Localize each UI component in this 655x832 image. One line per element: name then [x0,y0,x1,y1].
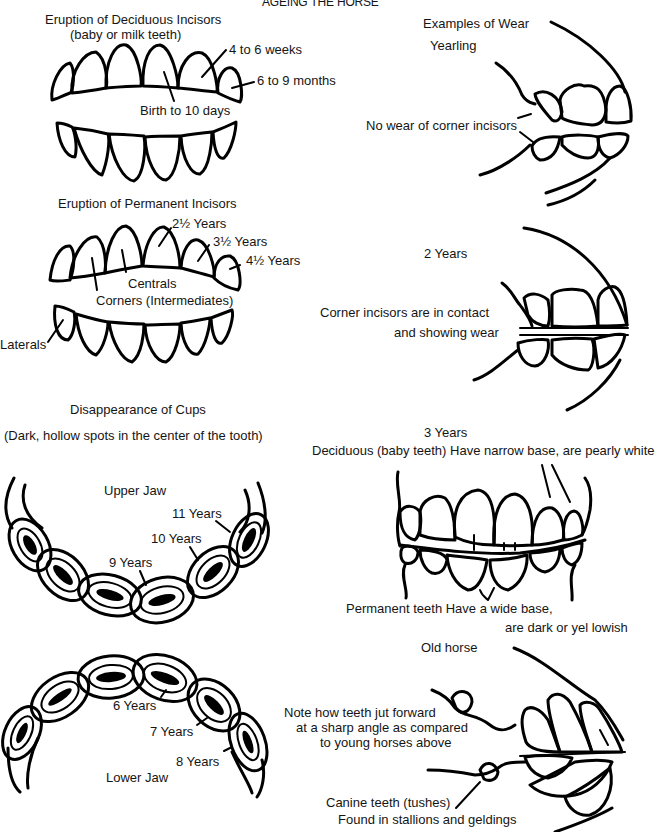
three-years-front-view [397,465,591,600]
two-years-label: 2 Years [424,246,467,261]
label-corners: Corners (Intermediates) [96,293,233,308]
three-years-label: 3 Years [424,425,467,440]
page-title: AGEING THE HORSE [262,0,379,10]
yearling-label: Yearling [430,38,477,53]
label-4-5-years: 4½ Years [246,253,300,268]
label-3-5-years: 3½ Years [213,234,267,249]
old-horse-note-1: Note how teeth jut forward [284,705,436,720]
permanent-heading: Eruption of Permanent Incisors [58,196,236,211]
old-horse-note-3: to young horses above [320,735,452,750]
yearling-profile [480,22,631,193]
label-centrals: Centrals [128,276,176,291]
label-6-years: 6 Years [113,698,156,713]
label-4-to-6-weeks: 4 to 6 weeks [229,42,302,57]
label-birth-to-10-days: Birth to 10 days [140,103,230,118]
cups-heading: Disappearance of Cups [70,402,206,417]
upper-jaw-label: Upper Jaw [104,483,166,498]
label-2-5-years: 2½ Years [172,216,226,231]
deciduous-subheading: (baby or milk teeth) [70,27,181,42]
canine-note-1: Canine teeth (tushes) [326,795,450,810]
three-years-permanent-note-2: are dark or yel lowish [505,620,628,635]
old-horse-label: Old horse [421,640,477,655]
label-11-years: 11 Years [172,506,222,521]
label-9-years: 9 Years [109,555,152,570]
wear-heading: Examples of Wear [423,16,529,31]
canine-note-2: Found in stallions and geldings [338,812,517,827]
yearling-note: No wear of corner incisors [366,118,517,133]
label-6-to-9-months: 6 to 9 months [257,73,336,88]
three-years-permanent-note-1: Permanent teeth Have a wide base, [346,601,553,616]
three-years-deciduous-note: Deciduous (baby teeth) Have narrow base,… [312,443,655,458]
two-years-note-2: and showing wear [394,325,499,340]
two-years-profile [474,180,628,410]
label-8-years: 8 Years [176,754,219,769]
deciduous-heading: Eruption of Deciduous Incisors [45,12,221,27]
upper-jaw-cup-diagram [0,478,276,630]
cups-subheading: (Dark, hollow spots in the center of the… [4,428,263,443]
label-10-years: 10 Years [151,531,202,546]
deciduous-upper-teeth [52,45,254,102]
old-horse-note-2: at a sharp angle as compared [296,720,468,735]
old-horse-profile [428,648,625,832]
deciduous-lower-teeth [57,122,236,181]
label-7-years: 7 Years [150,724,193,739]
lower-jaw-label: Lower Jaw [106,770,168,785]
label-laterals: Laterals [0,337,46,352]
two-years-note-1: Corner incisors are in contact [320,305,489,320]
permanent-lower-teeth [48,306,233,362]
